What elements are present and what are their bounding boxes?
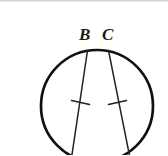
- point-label-c: C: [102, 26, 113, 43]
- tick-mark-right: [109, 101, 127, 105]
- geometry-figure-frame: B C: [0, 0, 168, 155]
- circle-outline: [41, 50, 153, 155]
- point-label-b: B: [79, 26, 90, 43]
- geometry-diagram: [0, 0, 168, 155]
- chord-from-c: [109, 51, 133, 156]
